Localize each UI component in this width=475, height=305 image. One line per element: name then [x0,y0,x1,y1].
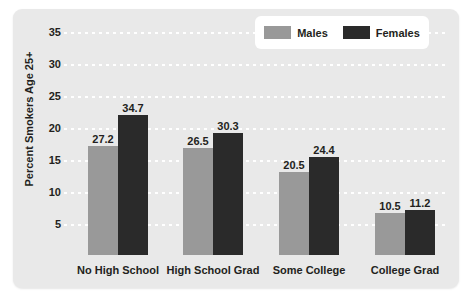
legend-entry-males[interactable]: Males [264,26,328,39]
bar-group-some-college: 20.5 24.4 Some College [279,21,339,255]
chart-panel: Percent Smokers Age 25+ 35 30 25 20 15 1… [13,9,459,288]
y-tick-10: 10 [49,186,61,198]
chart-legend: Males Females [255,16,429,49]
bar-value-males-no-high-school: 27.2 [92,133,113,145]
legend-entry-females[interactable]: Females [343,26,420,39]
category-label-high-school-grad: High School Grad [167,264,260,276]
y-tick-35: 35 [49,26,61,38]
category-label-no-high-school: No High School [77,264,159,276]
bar-females-no-high-school[interactable]: 34.7 [118,115,148,255]
bar-value-females-some-college: 24.4 [313,144,334,156]
bar-females-college-grad[interactable]: 11.2 [405,210,435,255]
bar-value-males-college-grad: 10.5 [379,200,400,212]
category-label-college-grad: College Grad [371,264,439,276]
bar-group-college-grad: 10.5 11.2 College Grad [375,21,435,255]
bar-males-some-college[interactable]: 20.5 [279,172,309,255]
legend-swatch-females-icon [343,26,370,39]
bar-value-females-no-high-school: 34.7 [122,102,143,114]
plot-area: 27.2 34.7 No High School 26.5 30.3 High … [64,21,447,255]
bar-value-males-high-school-grad: 26.5 [187,135,208,147]
y-tick-25: 25 [49,90,61,102]
y-tick-15: 15 [49,154,61,166]
bar-males-no-high-school[interactable]: 27.2 [88,146,118,256]
legend-label-females: Females [376,27,420,39]
y-tick-30: 30 [49,58,61,70]
legend-swatch-males-icon [264,26,291,39]
bar-males-college-grad[interactable]: 10.5 [375,213,405,255]
bar-group-no-high-school: 27.2 34.7 No High School [88,21,148,255]
bar-group-high-school-grad: 26.5 30.3 High School Grad [183,21,243,255]
bar-females-high-school-grad[interactable]: 30.3 [213,133,243,255]
bar-females-some-college[interactable]: 24.4 [309,157,339,255]
y-tick-20: 20 [49,122,61,134]
y-tick-5: 5 [55,218,61,230]
category-label-some-college: Some College [273,264,346,276]
bar-males-high-school-grad[interactable]: 26.5 [183,148,213,255]
bar-value-females-college-grad: 11.2 [410,197,431,209]
y-axis-tick-labels: 35 30 25 20 15 10 5 [26,21,64,255]
bar-value-females-high-school-grad: 30.3 [217,120,238,132]
legend-label-males: Males [297,27,328,39]
bar-value-males-some-college: 20.5 [283,159,304,171]
